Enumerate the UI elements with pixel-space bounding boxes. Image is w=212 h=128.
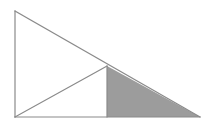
geometry-figure-svg xyxy=(0,0,212,128)
figure-canvas xyxy=(0,0,212,128)
